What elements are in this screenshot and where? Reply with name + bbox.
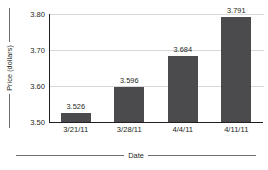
y-axis-tick-label: 3.80 bbox=[18, 10, 48, 19]
bar-value-label: 3.791 bbox=[227, 6, 246, 15]
y-axis-tick-label: 3.70 bbox=[18, 46, 48, 55]
bar bbox=[168, 56, 198, 122]
bar-value-label: 3.684 bbox=[174, 45, 193, 54]
x-axis-tick-label: 4/4/11 bbox=[156, 125, 210, 134]
x-axis-title: Date bbox=[128, 151, 144, 160]
x-axis-tick-label: 3/21/11 bbox=[49, 125, 103, 134]
x-axis-tick-labels: 3/21/113/28/114/4/114/11/11 bbox=[49, 125, 263, 134]
x-axis-line bbox=[49, 122, 263, 123]
x-axis-tick-label: 4/11/11 bbox=[210, 125, 264, 134]
y-axis-title-rule-top bbox=[9, 8, 10, 42]
x-axis-tick-label: 3/28/11 bbox=[103, 125, 157, 134]
bar bbox=[61, 113, 91, 122]
y-axis-tick-label: 3.60 bbox=[18, 82, 48, 91]
bar bbox=[221, 17, 251, 122]
bar-slot: 3.596 bbox=[103, 14, 157, 122]
bar-series: 3.5263.5963.6843.791 bbox=[49, 14, 263, 122]
y-axis-title-group: Price (dollars) bbox=[0, 8, 18, 128]
bar-slot: 3.684 bbox=[156, 14, 210, 122]
x-axis-title-group: Date bbox=[16, 148, 256, 162]
x-axis-title-rule-right bbox=[148, 155, 256, 156]
bar-value-label: 3.596 bbox=[120, 76, 139, 85]
y-axis-tick-labels: 3.503.603.703.80 bbox=[18, 0, 48, 170]
y-axis-tick-label: 3.50 bbox=[18, 118, 48, 127]
bar-value-label: 3.526 bbox=[67, 102, 86, 111]
bar-chart: Price (dollars) 3.503.603.703.80 3.5263.… bbox=[0, 0, 268, 170]
y-axis-title: Price (dollars) bbox=[5, 42, 14, 94]
bar bbox=[114, 87, 144, 122]
y-axis-title-rule-bottom bbox=[9, 94, 10, 128]
x-axis-title-rule-left bbox=[16, 155, 124, 156]
bar-slot: 3.526 bbox=[49, 14, 103, 122]
bar-slot: 3.791 bbox=[210, 14, 264, 122]
